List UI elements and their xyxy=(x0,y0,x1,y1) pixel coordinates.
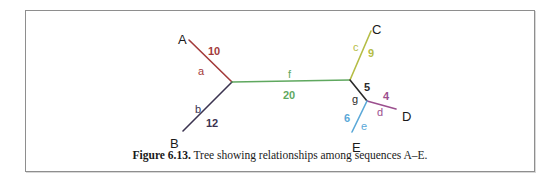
edge-label-a-name: a xyxy=(198,66,204,77)
figure-page: ABCDE 10ab12f20c95g4d6e Figure 6.13. Tre… xyxy=(0,0,554,187)
edge-label-f-name: f xyxy=(288,69,291,80)
edge-label-d-name: d xyxy=(377,107,383,118)
edge-label-b-name: b xyxy=(195,104,201,115)
caption-figure-number: Figure 6.13. xyxy=(133,149,191,161)
taxon-label-d: D xyxy=(402,110,411,123)
figure-caption: Figure 6.13. Tree showing relationships … xyxy=(35,149,525,163)
edge-label-c-name: c xyxy=(353,42,359,53)
edge-label-c-num: 9 xyxy=(368,48,374,59)
branch-f xyxy=(232,80,350,82)
edge-label-d-num: 4 xyxy=(383,91,389,102)
edge-label-g-num: 5 xyxy=(364,82,370,93)
taxon-label-c: C xyxy=(372,23,381,36)
edge-label-e-num: 6 xyxy=(344,113,350,124)
edge-label-f-num: 20 xyxy=(283,90,295,101)
edge-label-a-num: 10 xyxy=(208,46,220,57)
caption-description: Tree showing relationships among sequenc… xyxy=(191,149,428,161)
taxon-label-a: A xyxy=(178,33,187,46)
edge-label-e-name: e xyxy=(361,121,367,132)
edge-label-g-name: g xyxy=(352,94,358,105)
edge-label-b-num: 12 xyxy=(206,118,218,129)
